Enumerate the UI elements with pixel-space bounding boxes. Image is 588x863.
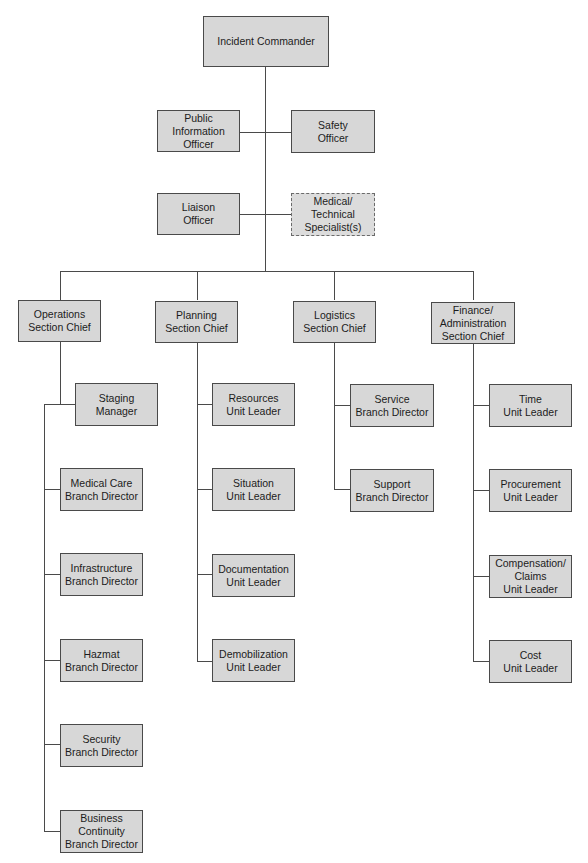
medical-care-branch-director-box: Medical Care Branch Director bbox=[60, 468, 143, 511]
documentation-unit-leader-box: Documentation Unit Leader bbox=[212, 554, 295, 597]
connector-finance-drop bbox=[473, 271, 474, 300]
situation-unit-leader-box: Situation Unit Leader bbox=[212, 468, 295, 511]
connector-logistics-service bbox=[334, 405, 350, 406]
planning-section-chief-box: Planning Section Chief bbox=[155, 301, 238, 343]
logistics-section-chief-box: Logistics Section Chief bbox=[293, 301, 376, 343]
connector-finance-procurement bbox=[473, 490, 489, 491]
connector-finance-compensation bbox=[473, 576, 489, 577]
connector-ops-infrastructure bbox=[44, 574, 60, 575]
resources-unit-leader-box: Resources Unit Leader bbox=[212, 383, 295, 426]
connector-planning-situation bbox=[197, 489, 212, 490]
staging-manager-box: Staging Manager bbox=[75, 383, 158, 426]
connector-ops-business bbox=[44, 831, 60, 832]
connector-planning-documentation bbox=[197, 574, 212, 575]
infrastructure-branch-director-box: Infrastructure Branch Director bbox=[60, 553, 143, 596]
operations-section-chief-box: Operations Section Chief bbox=[18, 300, 101, 342]
connector-ops-staging bbox=[44, 404, 75, 405]
connector-planning-resources bbox=[197, 404, 212, 405]
procurement-unit-leader-box: Procurement Unit Leader bbox=[489, 469, 572, 512]
time-unit-leader-box: Time Unit Leader bbox=[489, 384, 572, 427]
connector-finance-cost bbox=[473, 661, 489, 662]
service-branch-director-box: Service Branch Director bbox=[350, 384, 434, 427]
connector-commander-trunk bbox=[265, 67, 266, 272]
security-branch-director-box: Security Branch Director bbox=[60, 724, 143, 767]
business-continuity-branch-director-box: Business Continuity Branch Director bbox=[60, 810, 143, 853]
connector-planning-drop bbox=[197, 271, 198, 300]
compensation-claims-unit-leader-box: Compensation/ Claims Unit Leader bbox=[489, 555, 572, 598]
demobilization-unit-leader-box: Demobilization Unit Leader bbox=[212, 639, 295, 682]
cost-unit-leader-box: Cost Unit Leader bbox=[489, 640, 572, 683]
connector-logistics-drop bbox=[334, 271, 335, 300]
connector-finance-time bbox=[473, 405, 489, 406]
connector-logistics-spine bbox=[334, 342, 335, 490]
connector-pio-safety bbox=[240, 132, 291, 133]
connector-finance-spine bbox=[473, 344, 474, 662]
safety-officer-box: Safety Officer bbox=[291, 110, 375, 153]
incident-commander-box: Incident Commander bbox=[203, 16, 329, 67]
support-branch-director-box: Support Branch Director bbox=[350, 469, 434, 512]
connector-planning-demobilization bbox=[197, 661, 212, 662]
liaison-officer-box: Liaison Officer bbox=[157, 193, 240, 235]
finance-administration-section-chief-box: Finance/ Administration Section Chief bbox=[431, 302, 515, 344]
public-information-officer-box: Public Information Officer bbox=[157, 110, 240, 152]
hazmat-branch-director-box: Hazmat Branch Director bbox=[60, 639, 143, 682]
connector-ops-stem bbox=[60, 342, 61, 405]
medical-technical-specialists-box: Medical/ Technical Specialist(s) bbox=[291, 193, 375, 236]
connector-ops-security bbox=[44, 744, 60, 745]
connector-ops-medical bbox=[44, 489, 60, 490]
connector-ops-spine bbox=[44, 404, 45, 832]
connector-sections-bar bbox=[60, 271, 474, 272]
connector-liaison-medical bbox=[240, 214, 291, 215]
connector-planning-spine bbox=[197, 342, 198, 662]
connector-ops-drop bbox=[60, 271, 61, 300]
connector-logistics-support bbox=[334, 489, 350, 490]
connector-ops-hazmat bbox=[44, 660, 60, 661]
